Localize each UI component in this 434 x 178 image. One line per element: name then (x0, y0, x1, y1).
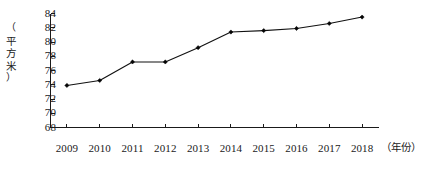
x-axis-ticks (67, 124, 362, 128)
data-point-marker (65, 83, 69, 87)
y-axis-ticks (51, 14, 55, 128)
data-point-marker (262, 29, 266, 33)
data-point-marker (327, 21, 331, 25)
plot-area (0, 0, 434, 178)
data-point-marker (229, 30, 233, 34)
series-markers (65, 15, 364, 88)
data-point-marker (196, 46, 200, 50)
data-point-marker (360, 15, 364, 19)
series-line-path (67, 17, 362, 85)
data-point-marker (163, 60, 167, 64)
line-chart-figure: （ 平 方 米 ） 687072747678808284 20092010201… (0, 0, 434, 178)
axis-lines (51, 14, 379, 128)
data-point-marker (294, 26, 298, 30)
